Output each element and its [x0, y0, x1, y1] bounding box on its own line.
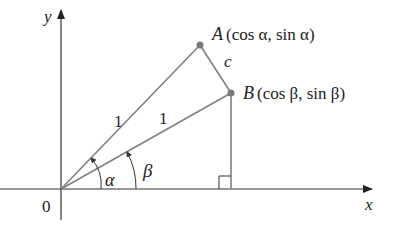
point-A-name: A: [211, 24, 224, 44]
diagram-svg: y x 0 A (cos α, sin α) B (cos β, sin β) …: [0, 0, 395, 229]
beta-arc: [127, 152, 136, 189]
beta-label: β: [142, 160, 153, 181]
point-A-coords: (cos α, sin α): [226, 25, 315, 44]
point-A: [197, 42, 204, 49]
segment-OA-label: 1: [114, 112, 123, 131]
point-B-name: B: [243, 83, 254, 103]
alpha-arc: [91, 158, 101, 189]
x-axis-label: x: [364, 195, 373, 214]
point-B-coords: (cos β, sin β): [257, 84, 345, 103]
y-axis-label: y: [42, 7, 52, 26]
segment-OB-label: 1: [159, 109, 168, 128]
right-angle-marker: [219, 176, 231, 189]
alpha-label: α: [105, 170, 115, 190]
diagram-canvas: y x 0 A (cos α, sin α) B (cos β, sin β) …: [0, 0, 395, 229]
origin-label: 0: [42, 197, 51, 216]
segment-OA: [61, 45, 200, 189]
point-B: [228, 90, 235, 97]
segment-AB-label: c: [224, 52, 232, 71]
